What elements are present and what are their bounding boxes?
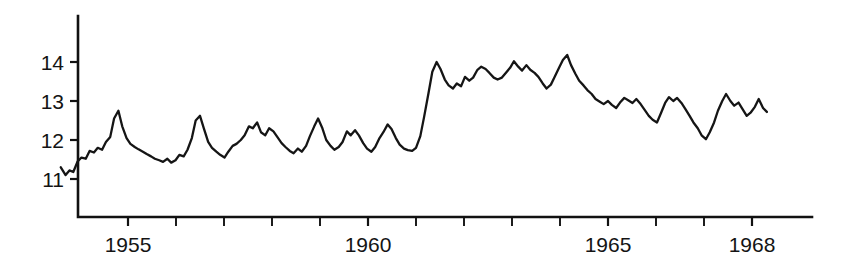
- line-chart: 11121314 1955196019651968: [0, 0, 849, 271]
- y-tick-label: 12: [41, 129, 64, 152]
- x-axis-ticks: [128, 217, 752, 226]
- data-series-line: [61, 55, 767, 175]
- y-tick-label: 11: [42, 168, 64, 191]
- y-axis-tick-labels: 11121314: [41, 51, 65, 191]
- x-tick-label: 1968: [729, 233, 776, 256]
- axes-group: [78, 16, 812, 217]
- x-tick-label: 1960: [345, 233, 392, 256]
- y-tick-label: 13: [41, 90, 64, 113]
- axis-lines: [78, 16, 812, 217]
- x-axis-tick-labels: 1955196019651968: [105, 233, 776, 256]
- x-tick-label: 1955: [105, 233, 152, 256]
- chart-container: 11121314 1955196019651968: [0, 0, 849, 271]
- series-group: [61, 55, 767, 175]
- x-tick-label: 1965: [585, 233, 632, 256]
- y-tick-label: 14: [41, 51, 65, 74]
